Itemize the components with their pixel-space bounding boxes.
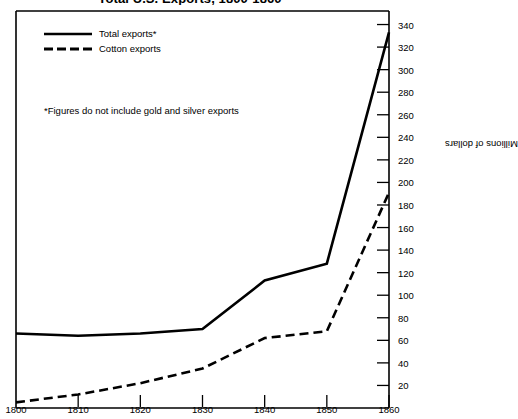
y-tick-label: 320 — [398, 42, 414, 53]
x-tick-label: 1810 — [68, 404, 89, 415]
x-tick-label: 1840 — [254, 404, 275, 415]
chart-footnote: *Figures do not include gold and silver … — [44, 105, 239, 116]
legend-item-total-exports: Total exports* — [44, 26, 161, 41]
y-tick-label: 260 — [398, 109, 414, 120]
y-axis-title: Millions of dollars — [445, 139, 518, 150]
legend-label-total-exports: Total exports* — [99, 29, 157, 39]
y-tick-label: 240 — [398, 132, 414, 143]
x-tick-label: 1830 — [192, 404, 213, 415]
y-tick-marks — [377, 25, 389, 386]
y-tick-label: 160 — [398, 222, 414, 233]
legend-line-solid-icon — [44, 29, 92, 39]
y-tick-label: 200 — [398, 177, 414, 188]
y-tick-label: 20 — [398, 380, 409, 391]
series-line-total-exports — [16, 32, 389, 335]
y-tick-label: 80 — [398, 312, 409, 323]
y-tick-label: 100 — [398, 290, 414, 301]
y-tick-label: 120 — [398, 267, 414, 278]
y-tick-label: 140 — [398, 245, 414, 256]
y-tick-label: 300 — [398, 64, 414, 75]
plot-area — [15, 11, 390, 408]
x-tick-label: 1860 — [378, 404, 399, 415]
axis-frame — [16, 11, 389, 408]
x-tick-label: 1850 — [316, 404, 337, 415]
x-tick-label: 1820 — [130, 404, 151, 415]
x-tick-marks — [78, 395, 389, 407]
chart-title: Total U.S. Exports, 1800-1860 — [0, 0, 380, 5]
y-tick-label: 40 — [398, 357, 409, 368]
plot-svg — [15, 11, 390, 408]
y-tick-label: 220 — [398, 154, 414, 165]
y-tick-label: 280 — [398, 87, 414, 98]
y-tick-label: 60 — [398, 335, 409, 346]
legend-line-dashed-icon — [44, 44, 92, 54]
series-line-cotton-exports — [16, 193, 389, 403]
y-tick-label: 340 — [398, 19, 414, 30]
x-tick-label: 1800 — [5, 404, 26, 415]
chart-legend: Total exports* Cotton exports — [44, 26, 161, 56]
y-tick-label: 180 — [398, 199, 414, 210]
legend-label-cotton-exports: Cotton exports — [99, 44, 161, 54]
legend-item-cotton-exports: Cotton exports — [44, 41, 161, 56]
